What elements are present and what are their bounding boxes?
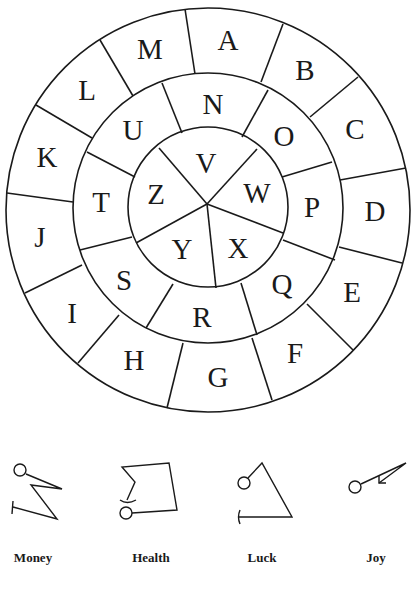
luck-sigil-icon <box>238 463 292 524</box>
letter-s: S <box>116 264 132 296</box>
joy-sigil-icon <box>349 463 406 493</box>
luck-sigil-label: Luck <box>248 550 277 566</box>
letter-u: U <box>123 114 144 146</box>
letter-n: N <box>203 88 224 120</box>
letter-i: I <box>67 297 77 329</box>
letter-d: D <box>365 195 386 227</box>
letter-f: F <box>287 337 303 369</box>
health-sigil-label: Health <box>132 550 170 566</box>
letter-g: G <box>208 361 229 393</box>
health-sigil-icon <box>120 463 177 519</box>
letter-p: P <box>304 191 320 223</box>
letter-k: K <box>37 141 58 173</box>
letter-r: R <box>192 301 212 333</box>
money-sigil-icon <box>12 464 62 519</box>
inner-ring-letters: V W X Y Z <box>147 147 271 265</box>
letter-t: T <box>92 186 110 218</box>
letter-h: H <box>124 344 145 376</box>
letter-j: J <box>34 221 45 253</box>
outer-ring-dividers <box>7 9 406 408</box>
letter-w: W <box>243 177 271 209</box>
letter-o: O <box>274 120 295 152</box>
letter-y: Y <box>172 233 193 265</box>
letter-l: L <box>78 74 96 106</box>
letter-b: B <box>295 54 314 86</box>
letter-e: E <box>343 276 361 308</box>
letter-x: X <box>228 232 249 264</box>
middle-ring-letters: N O P Q R S T U <box>92 88 320 333</box>
letter-m: M <box>137 33 163 65</box>
letter-v: V <box>196 147 217 179</box>
sigil-wheel-diagram: A B C D E F G H I J K L M N O P Q R S T … <box>0 0 418 589</box>
outer-ring-letters: A B C D E F G H I J K L M <box>34 24 385 393</box>
money-sigil-label: Money <box>14 550 52 566</box>
letter-a: A <box>218 24 239 56</box>
joy-sigil-label: Joy <box>366 550 386 566</box>
letter-c: C <box>345 113 364 145</box>
letter-q: Q <box>272 268 293 300</box>
letter-z: Z <box>147 178 165 210</box>
